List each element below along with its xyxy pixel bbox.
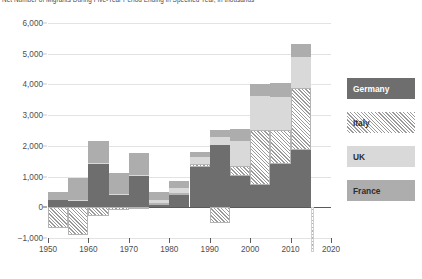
segment-germany-1990 <box>190 167 210 207</box>
segment-italy-2005 <box>250 130 270 185</box>
segment-germany-1965 <box>88 164 108 207</box>
x-tick-mark-1990 <box>210 238 211 243</box>
x-tick-label-1960: 1960 <box>79 245 97 254</box>
legend-item-italy[interactable]: Italy <box>347 112 415 133</box>
bar-1990 <box>190 23 210 238</box>
bar-1985 <box>169 23 189 238</box>
segment-france-1975 <box>129 153 149 175</box>
chart-legend: GermanyItalyUKFrance <box>347 78 417 214</box>
bar-1970 <box>109 23 129 238</box>
segment-germany-2010 <box>270 164 290 208</box>
segment-germany-1970 <box>109 195 129 207</box>
segment-germany-1995 <box>210 145 230 207</box>
x-axis-labels: 19501960197019801990200020102020 <box>0 245 422 261</box>
segment-germany-1955 <box>48 200 68 207</box>
y-tick-label-1000: 1,000 <box>23 172 44 181</box>
segment-germany-2005 <box>250 185 270 208</box>
segment-france-2000 <box>230 129 250 141</box>
plot-area: 6,0005,0004,0003,0002,0001,0000−1,000 <box>48 23 331 238</box>
y-tick-label-3000: 3,000 <box>23 111 44 120</box>
segment-france-1970 <box>109 173 129 195</box>
legend-item-uk[interactable]: UK <box>347 146 415 167</box>
x-tick-label-2020: 2020 <box>322 245 340 254</box>
bar-1980 <box>149 23 169 238</box>
legend-item-germany[interactable]: Germany <box>347 78 415 99</box>
bar-1955 <box>48 23 68 238</box>
y-tick-mark-4000 <box>43 84 47 85</box>
segment-italy-1995 <box>210 207 230 223</box>
x-tick-mark-1950 <box>48 238 49 243</box>
segment-italy-1955 <box>48 207 68 228</box>
segment-italy-1985 <box>169 193 189 195</box>
segment-uk-1975 <box>129 175 149 177</box>
bar-2000 <box>230 23 250 238</box>
segment-italy-1960 <box>68 207 88 235</box>
x-tick-label-1980: 1980 <box>160 245 178 254</box>
y-tick-mark-5000 <box>43 53 47 54</box>
legend-label-germany: Germany <box>347 84 389 94</box>
y-tick-label-2000: 2,000 <box>23 141 44 150</box>
segment-uk-1965 <box>88 163 108 165</box>
segment-uk-1985 <box>169 188 189 193</box>
segment-italy-1990 <box>190 164 210 167</box>
migration-stacked-bar-chart: Net Number of Migrants During Five-Year … <box>0 0 422 279</box>
x-tick-label-1950: 1950 <box>39 245 57 254</box>
bar-1960 <box>68 23 88 238</box>
x-tick-label-2000: 2000 <box>241 245 259 254</box>
x-tick-mark-2010 <box>291 238 292 243</box>
y-tick-label-6000: 6,000 <box>23 19 44 28</box>
chart-title: Net Number of Migrants During Five-Year … <box>2 0 420 3</box>
legend-label-france: France <box>347 186 380 196</box>
bar-2015 <box>291 23 311 238</box>
segment-uk-1980 <box>149 200 169 204</box>
segment-italy-1980 <box>149 203 169 205</box>
y-tick-label-4000: 4,000 <box>23 80 44 89</box>
segment-france-2010 <box>270 83 290 97</box>
y-tick-label--1000: −1,000 <box>18 234 43 243</box>
segment-italy-2000 <box>230 166 250 176</box>
segment-uk-2015 <box>291 57 311 88</box>
segment-france-1960 <box>68 178 88 200</box>
bar-2010 <box>270 23 290 238</box>
segment-germany-1975 <box>129 176 149 207</box>
y-tick-mark-3000 <box>43 115 47 116</box>
legend-label-italy: Italy <box>347 118 370 128</box>
x-tick-label-1990: 1990 <box>201 245 219 254</box>
segment-italy-2015 <box>291 88 311 150</box>
segment-france-1965 <box>88 141 108 163</box>
x-tick-mark-1980 <box>169 238 170 243</box>
x-tick-mark-1960 <box>88 238 89 243</box>
x-tick-mark-2020 <box>331 238 332 243</box>
x-tick-label-1970: 1970 <box>120 245 138 254</box>
segment-germany-1960 <box>68 200 88 207</box>
legend-item-france[interactable]: France <box>347 180 415 201</box>
segment-uk-2010 <box>270 97 290 130</box>
bar-1975 <box>129 23 149 238</box>
segment-france-2015 <box>291 44 311 58</box>
segment-germany-2000 <box>230 176 250 207</box>
segment-italy-2010 <box>270 130 290 163</box>
segment-uk-1970 <box>109 194 129 195</box>
y-tick-label-5000: 5,000 <box>23 49 44 58</box>
segment-italy-1965 <box>88 207 108 216</box>
bar-2020 <box>311 23 314 238</box>
segment-germany-1985 <box>169 195 189 207</box>
segment-france-1980 <box>149 192 169 199</box>
y-tick-mark-2000 <box>43 145 47 146</box>
x-tick-mark-2000 <box>250 238 251 243</box>
segment-france-1985 <box>169 181 189 187</box>
segment-uk-2005 <box>250 96 270 129</box>
bar-1965 <box>88 23 108 238</box>
legend-label-uk: UK <box>347 152 365 162</box>
bar-2005 <box>250 23 270 238</box>
y-tick-mark-1000 <box>43 176 47 177</box>
x-tick-mark-1970 <box>129 238 130 243</box>
segment-france-2005 <box>250 84 270 97</box>
y-tick-mark--1000 <box>43 238 47 239</box>
y-tick-mark-6000 <box>43 23 47 24</box>
segment-uk-1960 <box>68 200 88 201</box>
segment-france-1990 <box>190 152 210 157</box>
segment-italy-1975 <box>129 207 149 209</box>
segment-germany-2015 <box>291 150 311 207</box>
y-tick-mark-0 <box>43 207 47 208</box>
